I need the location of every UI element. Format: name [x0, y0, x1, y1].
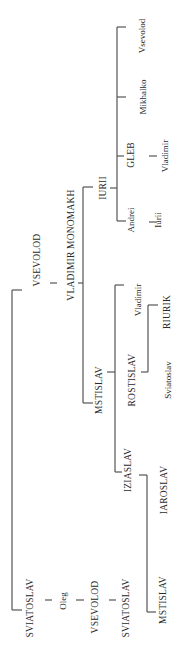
node-sviatoslav-root: SVIATOSLAV [26, 578, 36, 637]
node-gleb: GLEB [127, 142, 137, 168]
node-sviatoslav-rostislavich: Sviatoslav [164, 361, 173, 399]
node-vsevolod-iaroslavich: VSEVOLOD [33, 234, 43, 287]
node-sviatoslav-vsevolodovich: SVIATOSLAV [122, 578, 132, 637]
node-vsevolod-olegovich: VSEVOLOD [91, 581, 101, 634]
node-mikhalko: Mikhalko [139, 80, 148, 115]
node-iziaslav: IZIASLAV [124, 448, 134, 492]
node-iaroslav: IAROSLAV [160, 466, 170, 514]
node-mstislav-iziaslavich: MSTISLAV [159, 576, 169, 624]
node-oleg: Oleg [59, 592, 68, 610]
node-iurii-andreevich: Iurii [154, 212, 163, 228]
node-riurik: RIURIK [163, 295, 173, 329]
node-mstislav: MSTISLAV [95, 366, 105, 414]
node-vladimir-glebovich: Vladimir [161, 140, 170, 173]
node-vsevolod-iurevich: Vsevolod [138, 19, 147, 54]
node-vladimir-monomakh: VLADIMIR MONOMAKH [67, 189, 77, 300]
node-rostislav: ROSTISLAV [128, 354, 138, 407]
tree-connector-lines [0, 0, 180, 668]
node-iurii: IURII [99, 176, 109, 200]
node-andrei: Andrei [127, 208, 136, 233]
node-vladimir-mstislavich: Vladimir [134, 284, 143, 317]
